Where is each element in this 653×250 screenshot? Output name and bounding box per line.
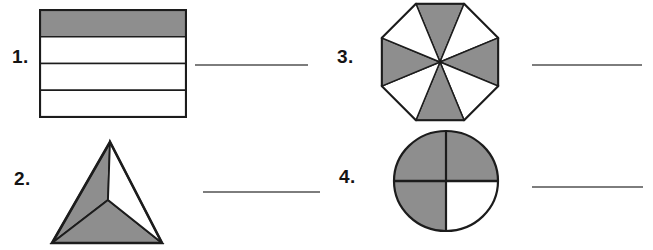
unshaded-part <box>40 90 186 117</box>
fraction-octagon <box>376 1 504 123</box>
item-3-number: 3. <box>337 46 354 68</box>
fraction-rectangle <box>39 9 187 118</box>
shaded-part <box>40 10 186 37</box>
fraction-triangle <box>46 136 168 248</box>
fraction-circle <box>392 129 500 233</box>
answer-blank-1[interactable] <box>195 64 308 66</box>
fraction-worksheet: 1. 2. 3. 4. <box>0 0 653 250</box>
item-1-number: 1. <box>12 46 29 68</box>
answer-blank-4[interactable] <box>532 186 643 188</box>
unshaded-part <box>40 64 186 91</box>
answer-blank-3[interactable] <box>532 64 642 66</box>
item-2-number: 2. <box>14 168 31 190</box>
answer-blank-2[interactable] <box>203 191 320 193</box>
unshaded-part <box>40 37 186 64</box>
item-4-number: 4. <box>339 166 356 188</box>
